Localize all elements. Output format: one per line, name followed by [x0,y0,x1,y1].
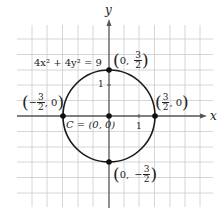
equation-label: 4x² + 4y² = 9 [34,58,102,68]
bottom-point-label: (0, −32) [113,165,157,184]
x-tick-label-1: 1 [136,122,142,131]
point-right [152,113,158,119]
y-axis-label: y [105,4,112,16]
point-center [106,113,112,119]
y-tick-label-1: 1 [98,80,104,89]
y-axis-arrow-icon [107,19,112,26]
point-top [106,67,112,73]
left-point-label: (−32, 0) [22,93,64,112]
center-label: C = (0, 0) [66,120,115,130]
right-point-label: (32, 0) [155,93,189,112]
top-point-label: (0, 32) [113,51,149,70]
x-axis-label: x [210,110,217,122]
point-left [60,113,66,119]
center-label-text: C = (0, 0) [66,119,115,130]
point-bottom [106,159,112,165]
x-axis-arrow-icon [200,114,207,119]
